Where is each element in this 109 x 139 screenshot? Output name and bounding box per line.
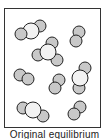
atom-white <box>25 102 41 118</box>
molecule-box-diagram <box>0 0 109 139</box>
atom-gray <box>15 28 27 40</box>
atom-gray <box>22 73 34 85</box>
atom-gray <box>68 108 80 120</box>
atom-white <box>72 70 88 86</box>
atom-white <box>40 44 56 60</box>
figure-caption: Original equilibrium <box>0 129 109 139</box>
atom-gray <box>70 35 82 47</box>
equilibrium-figure: Original equilibrium <box>0 0 109 139</box>
atom-gray <box>49 82 61 94</box>
